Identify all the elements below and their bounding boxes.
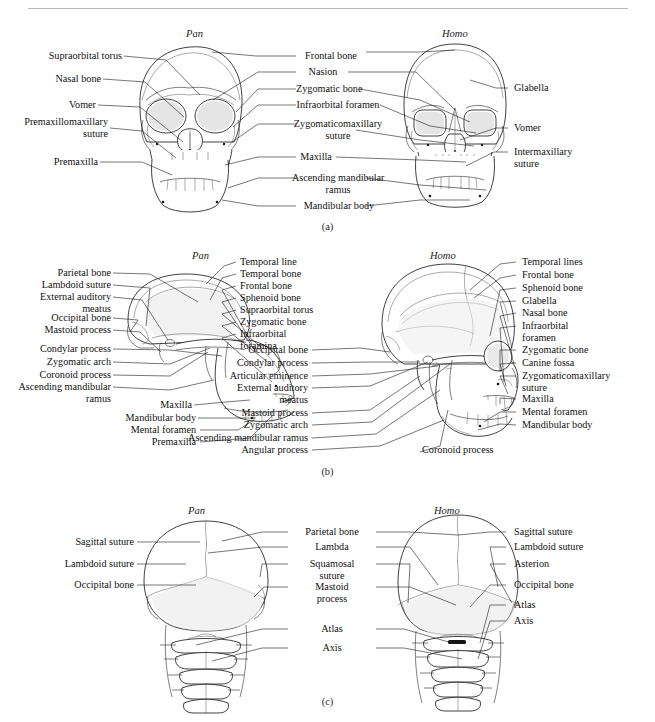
label-condylar-process-b-center: Condylar process — [160, 357, 308, 369]
label-occipital-bone-c-right: Occipital bone — [514, 579, 654, 591]
label-sagittal-suture-c-right: Sagittal suture — [514, 526, 654, 538]
homo-posterior-skull — [398, 515, 518, 711]
label-condylar-process-b-left: Condylar process — [0, 343, 111, 355]
label-zygomatic-bone-b-right: Zygomatic bone — [522, 344, 652, 356]
label-coronoid-process-b-center: Coronoid process — [422, 444, 532, 456]
label-temporal-line-b: Temporal line — [240, 256, 350, 268]
label-sphenoid-bone-b-center: Sphenoid bone — [240, 292, 350, 304]
label-parietal-bone-c: Parietal bone — [290, 526, 374, 538]
pan-anterior-skull — [140, 47, 242, 212]
label-nasal-bone-b: Nasal bone — [522, 307, 652, 319]
label-zygomatic-arch-b-left: Zygomatic arch — [0, 356, 111, 368]
label-sphenoid-bone-b-right: Sphenoid bone — [522, 282, 652, 294]
pan-posterior-skull — [144, 521, 268, 713]
label-mastoid-process-c: Mastoid process — [290, 581, 374, 604]
panel-a-letter: (a) — [0, 221, 655, 232]
label-mastoid-process-b-center: Mastoid process — [160, 407, 308, 419]
label-external-auditory-meatus-b-left: External auditory meatus — [0, 291, 111, 314]
label-vomer-a-right: Vomer — [514, 122, 604, 134]
label-lambda-c: Lambda — [298, 541, 366, 553]
label-temporal-bone-b: Temporal bone — [240, 268, 350, 280]
label-zygomatic-bone-a: Zygomatic bone — [296, 83, 360, 95]
label-frontal-bone-a: Frontal bone — [296, 50, 366, 62]
label-parietal-bone-b: Parietal bone — [0, 267, 111, 279]
label-nasion-a: Nasion — [298, 66, 348, 78]
homo-lateral-skull — [382, 264, 518, 436]
panel-b-letter: (b) — [0, 466, 655, 477]
panel-c-letter: (c) — [0, 696, 655, 707]
label-articular-eminence-b: Articular eminence — [160, 370, 308, 382]
label-occipital-bone-c-left: Occipital bone — [0, 579, 134, 591]
label-occipital-bone-b-center: Occipital bone — [160, 344, 308, 356]
label-maxilla-b-right: Maxilla — [522, 393, 652, 405]
label-supraorbital-torus-a: Supraorbital torus — [0, 50, 122, 62]
label-intermaxillary-suture-a: Intermaxillary suture — [514, 146, 624, 169]
label-maxilla-a: Maxilla — [296, 151, 336, 163]
label-ascending-mandibular-ramus-b-left: Ascending mandibular ramus — [0, 381, 111, 404]
label-atlas-c-center: Atlas — [298, 623, 366, 635]
label-lambdoid-suture-b: Lambdoid suture — [0, 279, 111, 291]
label-mandibular-body-a: Mandibular body — [294, 200, 384, 212]
label-axis-c-right: Axis — [514, 615, 654, 627]
label-atlas-c-right: Atlas — [514, 599, 654, 611]
label-zygomaticomaxillary-suture-b: Zygomaticomaxillary suture — [522, 370, 655, 393]
panel-a-anterior-view: Pan Homo — [0, 0, 655, 240]
label-nasal-bone-a: Nasal bone — [0, 73, 101, 85]
label-mental-foramen-b-right: Mental foramen — [522, 406, 652, 418]
label-coronoid-process-b-left: Coronoid process — [0, 369, 111, 381]
label-zygomaticomaxillary-suture-a: Zygomaticomaxillary suture — [292, 118, 384, 141]
label-glabella-b: Glabella — [522, 295, 652, 307]
label-zygomatic-bone-b-center: Zygomatic bone — [240, 316, 350, 328]
label-mandibular-body-b-right: Mandibular body — [522, 419, 652, 431]
homo-anterior-skull — [404, 44, 506, 207]
label-infraorbital-foramen-a: Infraorbital foramen — [296, 99, 380, 111]
label-zygomatic-arch-b-center: Zygomatic arch — [160, 419, 308, 431]
label-sagittal-suture-c-left: Sagittal suture — [0, 536, 134, 548]
label-ascending-mandibular-ramus-b-center: Ascending mandibular ramus — [118, 432, 308, 444]
label-glabella-a: Glabella — [514, 82, 604, 94]
label-canine-fossa-b: Canine fossa — [522, 357, 652, 369]
label-mastoid-process-b-left: Mastoid process — [0, 324, 111, 336]
label-external-auditory-meatus-b-center: External auditory meatus — [160, 382, 308, 405]
label-premaxilla-a: Premaxilla — [0, 156, 98, 168]
label-axis-c-center: Axis — [298, 642, 366, 654]
label-lambdoid-suture-c-right: Lambdoid suture — [514, 541, 654, 553]
label-frontal-bone-b-right: Frontal bone — [522, 269, 652, 281]
label-ascending-mandibular-ramus-a: Ascending mandibular ramus — [292, 172, 384, 195]
label-infraorbital-foramen-b: Infraorbital foramen — [522, 320, 652, 343]
panel-b-lateral-view: Pan Homo — [0, 240, 655, 485]
label-asterion-c: Asterion — [514, 558, 654, 570]
label-squamosal-suture-c: Squamosal suture — [290, 558, 374, 581]
label-supraorbital-torus-b: Supraorbital torus — [240, 304, 350, 316]
label-vomer-a-left: Vomer — [0, 99, 96, 111]
label-premaxillomaxillary-suture-a: Premaxillomaxillary suture — [0, 116, 108, 139]
label-lambdoid-suture-c-left: Lambdoid suture — [0, 558, 134, 570]
label-temporal-lines-b: Temporal lines — [522, 256, 652, 268]
label-angular-process-b: Angular process — [160, 444, 308, 456]
label-frontal-bone-b-center: Frontal bone — [240, 280, 350, 292]
label-occipital-bone-b-left: Occipital bone — [0, 312, 111, 324]
panel-c-posterior-view: Pan Homo — [0, 485, 655, 722]
